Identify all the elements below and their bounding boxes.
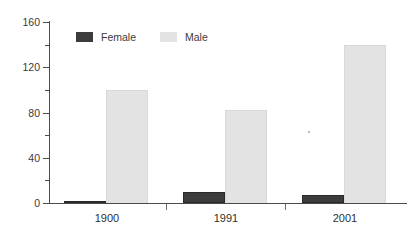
legend-item-male: Male — [160, 32, 208, 43]
x-tick-divider-1 — [166, 204, 167, 210]
y-tick-label-160: 160 — [0, 17, 40, 28]
y-tick-label-0-wrap: 0 — [0, 198, 40, 208]
y-tick-label-80: 80 — [0, 108, 40, 119]
y-tick-label-160-wrap: 160 — [0, 17, 40, 27]
bar-male-1900 — [106, 90, 148, 203]
legend-swatch-male-icon — [160, 32, 177, 42]
bars-layer — [49, 18, 407, 203]
y-tick-label-80-wrap: 80 — [0, 108, 40, 118]
x-axis-line — [49, 203, 407, 204]
bar-male-1991 — [225, 110, 267, 203]
legend-swatch-female-icon — [76, 32, 93, 42]
chart-legend: Female Male — [76, 32, 208, 43]
x-tick-label-1900: 1900 — [72, 212, 142, 225]
bar-female-2001 — [302, 195, 344, 203]
bar-chart: 04080120160 1900 1991 2001 Female Male — [0, 0, 415, 239]
x-tick-label-1991: 1991 — [191, 212, 261, 225]
y-tick-label-0: 0 — [0, 198, 40, 209]
y-tick-label-40: 40 — [0, 153, 40, 164]
bar-male-2001 — [344, 45, 386, 203]
legend-item-female: Female — [76, 32, 136, 43]
legend-label-male: Male — [185, 32, 208, 43]
y-tick-label-40-wrap: 40 — [0, 153, 40, 163]
y-tick-label-120: 120 — [0, 62, 40, 73]
bar-female-1900 — [64, 201, 106, 203]
bar-female-1991 — [183, 192, 225, 203]
x-tick-divider-2 — [285, 204, 286, 210]
y-tick-label-120-wrap: 120 — [0, 62, 40, 72]
legend-label-female: Female — [101, 32, 136, 43]
x-tick-label-2001: 2001 — [310, 212, 380, 225]
